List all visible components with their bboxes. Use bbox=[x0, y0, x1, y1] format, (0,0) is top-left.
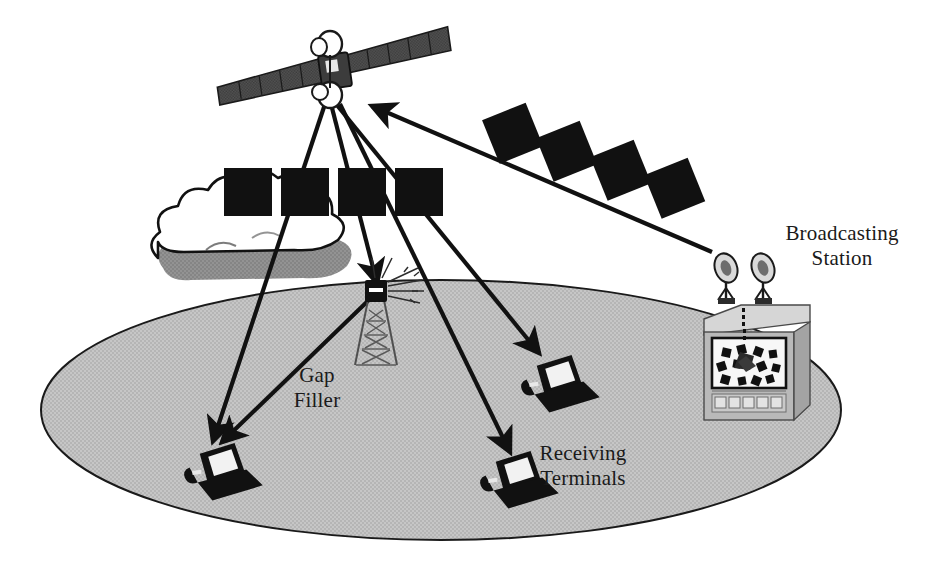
broadcasting-station-unit bbox=[704, 250, 810, 420]
uplink-block bbox=[590, 140, 651, 201]
label-receiving-terminals: Receiving Terminals bbox=[497, 441, 669, 491]
downlink-data-blocks bbox=[224, 168, 443, 216]
broadcast-satellite bbox=[215, 27, 452, 108]
label-gap-filler: Gap Filler bbox=[262, 363, 372, 413]
label-broadcasting-station: Broadcasting Station bbox=[752, 221, 932, 271]
downlink-block bbox=[281, 168, 329, 216]
downlink-block bbox=[224, 168, 272, 216]
uplink-block bbox=[482, 103, 543, 164]
uplink-block bbox=[644, 158, 705, 219]
downlink-block bbox=[338, 168, 386, 216]
diagram-svg bbox=[0, 0, 941, 570]
station-dish-antenna-left bbox=[711, 250, 742, 304]
station-side-face bbox=[794, 322, 810, 420]
station-buttons bbox=[715, 397, 782, 408]
downlink-block bbox=[395, 168, 443, 216]
uplink-block bbox=[536, 121, 597, 182]
diagram-canvas: Broadcasting Station Gap Filler Receivin… bbox=[0, 0, 941, 570]
